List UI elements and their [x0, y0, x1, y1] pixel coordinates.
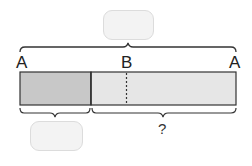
point-label-b: B	[121, 54, 132, 71]
point-label-a-right: A	[229, 54, 240, 71]
light-segment	[91, 72, 236, 105]
point-label-a-left: A	[16, 54, 27, 71]
top-brace	[20, 43, 236, 52]
bottom-answer-box[interactable]	[30, 121, 83, 151]
bottom-right-brace	[92, 108, 236, 117]
shaded-segment	[20, 72, 91, 105]
unknown-question-mark: ?	[158, 121, 166, 136]
bottom-left-brace	[20, 108, 90, 117]
